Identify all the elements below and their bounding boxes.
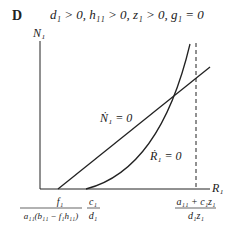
x-tick-2-denominator: d₁ [89, 210, 97, 221]
x-tick-3-denominator: d₁z₁ [188, 210, 204, 221]
x-tick-3: a₁₁ + c₁z₁ d₁z₁ [175, 196, 216, 221]
x-tick-1: f₁ a₁₁(b₁₁ − f₁h₁₁) [20, 196, 82, 221]
phase-diagram: D d₁ > 0, h₁₁ > 0, z₁ > 0, g₁ = 0 N₁ R₁ … [0, 0, 232, 233]
panel-letter: D [12, 8, 22, 23]
n-nullcline-label: Ṅ₁ = 0 [99, 111, 132, 125]
x-tick-1-denominator: a₁₁(b₁₁ − f₁h₁₁) [24, 211, 78, 221]
y-axis-label: N₁ [32, 26, 45, 40]
x-tick-1-numerator: f₁ [57, 196, 63, 207]
r-nullcline-label: Ṙ₁ = 0 [149, 149, 182, 163]
x-tick-3-numerator: a₁₁ + c₁z₁ [177, 196, 216, 207]
conditions-label: d₁ > 0, h₁₁ > 0, z₁ > 0, g₁ = 0 [50, 7, 204, 22]
n-nullcline [58, 67, 210, 189]
x-tick-2: c₁ d₁ [87, 196, 100, 221]
x-axis-label: R₁ [211, 181, 224, 195]
x-tick-2-numerator: c₁ [89, 196, 97, 207]
